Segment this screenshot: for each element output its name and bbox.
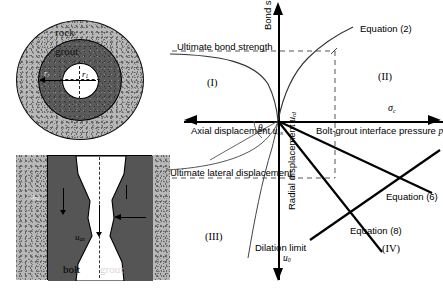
uax-arrowhead-icon (96, 232, 102, 237)
annotation-theta0: θ0 (258, 124, 266, 134)
four-quadrant-chart: Bond strength τ Radial displacement urd … (150, 0, 443, 294)
rock-label: rock (55, 27, 75, 38)
grout-label-cross: grout (55, 46, 78, 57)
annotation-u0: u0 (283, 254, 291, 264)
axis-label-radial-displacement: Radial displacement urd (287, 112, 298, 210)
radius-tick-mark (126, 185, 127, 199)
axis-label-interface-pressure: Bolt-grout interface pressure p1 (316, 126, 443, 137)
bolt-label: bolt (63, 264, 80, 275)
quadrant-label-II: (II) (378, 72, 392, 83)
annotation-equation-2: Equation (2) (360, 24, 412, 34)
sigma-c-label: σc (388, 103, 396, 114)
r2-label: r2 (44, 70, 50, 79)
quadrant-label-IV: (IV) (382, 244, 400, 255)
annotation-equation-8: Equation (8) (350, 226, 402, 236)
urd-arrow-line (63, 188, 64, 212)
figure-root: rock grout r1 r2 urd uax bolt grout (0, 0, 443, 294)
uax-arrow-line (99, 205, 100, 234)
equation-2-curve (278, 27, 353, 121)
annotation-equation-6: Equation (6) (386, 192, 438, 202)
urd-label-longitudinal: urd (30, 192, 39, 202)
bond-strength-curve-I (170, 54, 278, 121)
axis-label-bond-strength: Bond strength τ (263, 0, 274, 30)
urd-arrowhead-icon (60, 210, 66, 215)
quadrant-label-I: (I) (207, 78, 218, 89)
axis-label-axial-displacement: Axial displacement uax (191, 126, 283, 137)
pressure-arrowhead-icon (114, 214, 121, 220)
uax-label-longitudinal: uax (75, 233, 85, 243)
quadrant-label-III: (III) (205, 232, 222, 243)
annotation-ultimate-bond-strength: Ultimate bond strength (177, 42, 273, 52)
r1-label: r1 (82, 70, 88, 80)
sigma-c-intersection-tick (331, 48, 337, 54)
grout-label-longitudinal: grout (100, 264, 123, 275)
annotation-dilation-limit: Dilation limit (255, 243, 306, 253)
annotation-ultimate-lateral-displacement: Ultimate lateral displacement (170, 168, 292, 178)
cross-section-bolt-core (62, 63, 99, 99)
r2-dimension-arrow (40, 80, 80, 81)
